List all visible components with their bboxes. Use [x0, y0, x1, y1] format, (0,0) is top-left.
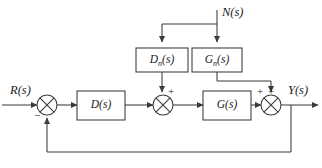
block-noise-path-label: Gn(s): [192, 54, 242, 68]
reference-signal-label: R(s): [10, 84, 31, 97]
block-controller-label: D(s): [77, 99, 125, 111]
block-feedforward-compensator-label: Dn(s): [136, 54, 188, 68]
block-noise-path-base: G: [205, 53, 213, 65]
control-junction-plus-sign: +: [168, 86, 174, 97]
output-signal-label: Y(s): [288, 84, 308, 97]
noise-signal-label: N(s): [222, 6, 244, 19]
block-feedforward-arg: (s): [162, 53, 174, 65]
block-diagram-canvas: R(s) Y(s) N(s) D(s) G(s) Dn(s) Gn(s) − +…: [0, 0, 322, 168]
block-feedforward-base: D: [150, 53, 158, 65]
block-plant-arg: (s): [225, 98, 237, 110]
block-controller-arg: (s): [99, 98, 111, 110]
error-junction-minus-sign: −: [34, 110, 40, 121]
diagram-wires: [0, 0, 322, 168]
block-plant-base: G: [217, 98, 225, 110]
block-controller-base: D: [91, 98, 99, 110]
block-plant-label: G(s): [203, 99, 251, 111]
output-junction-plus-sign-left: +: [257, 86, 263, 97]
output-junction-plus-sign-top: +: [268, 86, 274, 97]
block-noise-path-arg: (s): [217, 53, 229, 65]
